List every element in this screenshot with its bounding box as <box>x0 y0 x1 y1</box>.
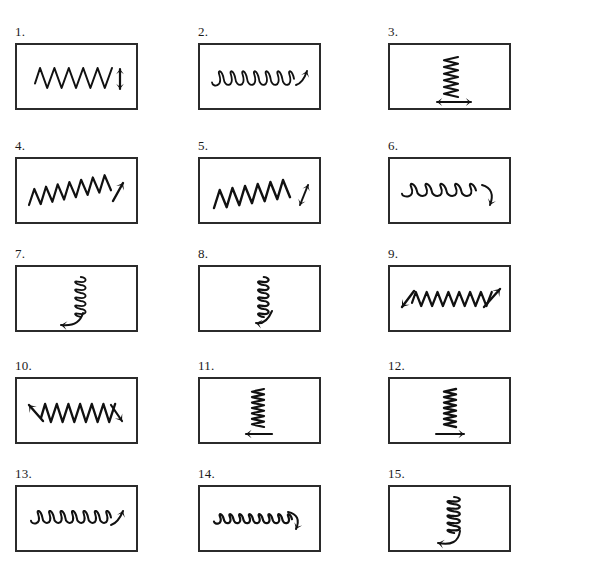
figure-panel-5: 5. <box>198 139 321 224</box>
figure-panel-11: 11. <box>198 359 321 444</box>
figure-panel-12: 12. <box>388 359 511 444</box>
panel-border-box-12 <box>388 377 511 444</box>
worksheet-sheet: 1.2.3.4.5.6.7.8.9.10.11.12.13.14.15. <box>0 0 597 576</box>
panel-number-label-11: 11. <box>198 359 215 372</box>
wave-arrow-drawing-7 <box>17 267 140 334</box>
panel-border-box-4 <box>15 157 138 224</box>
figure-panel-10: 10. <box>15 359 138 444</box>
panel-number-label-7: 7. <box>15 247 25 260</box>
panel-border-box-5 <box>198 157 321 224</box>
panel-number-label-8: 8. <box>198 247 208 260</box>
figure-panel-15: 15. <box>388 467 511 552</box>
wave-arrow-drawing-2 <box>200 45 323 112</box>
panel-number-label-1: 1. <box>15 25 25 38</box>
panel-border-box-14 <box>198 485 321 552</box>
panel-number-label-3: 3. <box>388 25 398 38</box>
figure-panel-8: 8. <box>198 247 321 332</box>
wave-arrow-drawing-12 <box>390 379 513 446</box>
wave-arrow-drawing-13 <box>17 487 140 554</box>
figure-panel-4: 4. <box>15 139 138 224</box>
panel-border-box-8 <box>198 265 321 332</box>
panel-number-label-15: 15. <box>388 467 405 480</box>
figure-panel-1: 1. <box>15 25 138 110</box>
wave-arrow-drawing-15 <box>390 487 513 554</box>
panel-number-label-2: 2. <box>198 25 208 38</box>
wave-arrow-drawing-4 <box>17 159 140 226</box>
wave-arrow-drawing-6 <box>390 159 513 226</box>
panel-border-box-6 <box>388 157 511 224</box>
figure-panel-14: 14. <box>198 467 321 552</box>
panel-number-label-12: 12. <box>388 359 405 372</box>
panel-number-label-5: 5. <box>198 139 208 152</box>
figure-panel-9: 9. <box>388 247 511 332</box>
panel-border-box-11 <box>198 377 321 444</box>
panel-number-label-13: 13. <box>15 467 32 480</box>
panel-border-box-3 <box>388 43 511 110</box>
panel-border-box-13 <box>15 485 138 552</box>
figure-panel-7: 7. <box>15 247 138 332</box>
panel-number-label-14: 14. <box>198 467 215 480</box>
panel-border-box-7 <box>15 265 138 332</box>
wave-arrow-drawing-10 <box>17 379 140 446</box>
figure-panel-3: 3. <box>388 25 511 110</box>
figure-panel-6: 6. <box>388 139 511 224</box>
figure-panel-2: 2. <box>198 25 321 110</box>
wave-arrow-drawing-5 <box>200 159 323 226</box>
wave-arrow-drawing-14 <box>200 487 323 554</box>
panel-border-box-2 <box>198 43 321 110</box>
panel-number-label-6: 6. <box>388 139 398 152</box>
panel-number-label-10: 10. <box>15 359 32 372</box>
wave-arrow-drawing-8 <box>200 267 323 334</box>
figure-panel-13: 13. <box>15 467 138 552</box>
panel-number-label-4: 4. <box>15 139 25 152</box>
panel-border-box-15 <box>388 485 511 552</box>
panel-border-box-9 <box>388 265 511 332</box>
wave-arrow-drawing-3 <box>390 45 513 112</box>
panel-number-label-9: 9. <box>388 247 398 260</box>
panel-border-box-10 <box>15 377 138 444</box>
wave-arrow-drawing-1 <box>17 45 140 112</box>
wave-arrow-drawing-9 <box>390 267 513 334</box>
panel-border-box-1 <box>15 43 138 110</box>
wave-arrow-drawing-11 <box>200 379 323 446</box>
